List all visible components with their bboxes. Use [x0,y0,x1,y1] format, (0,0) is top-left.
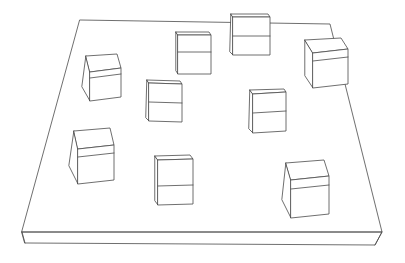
cube-9-front-face [291,176,329,218]
cube-4 [82,54,121,101]
cube-9 [282,160,329,218]
cube-1-side-face [230,14,233,55]
cube-4-front-face [90,68,121,101]
slab-front-face [22,232,382,245]
wireframe-scene-svg [0,0,405,263]
cube-6 [249,89,286,133]
cube-2 [176,32,211,74]
cube-1 [230,14,270,55]
slab-right-edge [375,232,382,245]
cube-8-side-face [155,156,158,205]
slab-left-edge [22,232,25,243]
cube-3 [305,38,348,88]
cube-7 [69,128,114,184]
cube-3-front-face [313,49,348,88]
cube-6-side-face [249,90,253,133]
cube-5 [146,80,182,122]
cube-7-front-face [78,145,114,184]
cube-8 [155,155,193,205]
cube-2-front-face [178,35,211,74]
cube-5-side-face [146,80,149,121]
cube-1-top-face [231,14,270,17]
scene-canvas [0,0,405,263]
cube-2-top-face [176,32,211,35]
cube-8-front-face [158,159,193,205]
